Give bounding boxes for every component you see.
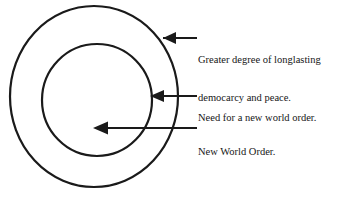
arrow-core xyxy=(93,122,197,135)
label-outer-line-1: Greater degree of longlasting xyxy=(198,54,340,67)
label-inner-line-1: New World Order. xyxy=(198,146,340,159)
label-inner-circle-core: New World Order. xyxy=(198,121,340,184)
arrow-outer-ring xyxy=(163,32,197,44)
diagram-canvas: Greater degree of longlasting democarcy … xyxy=(0,0,345,204)
arrow-inner-edge xyxy=(150,90,197,102)
inner-circle xyxy=(42,44,152,156)
